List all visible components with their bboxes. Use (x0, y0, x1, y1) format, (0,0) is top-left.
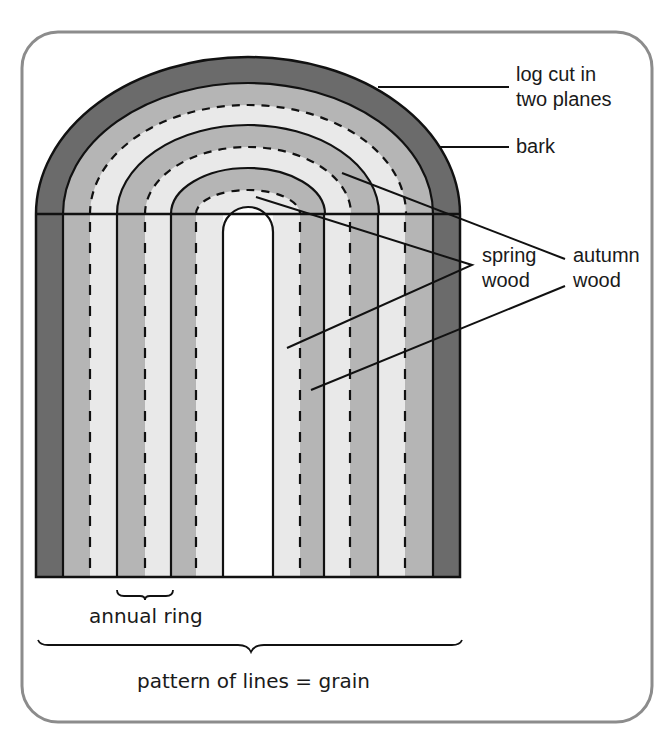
label-spring-line1: spring (482, 244, 536, 266)
label-log-cut-line2: two planes (516, 88, 612, 110)
label-grain-caption: pattern of lines = grain (137, 669, 370, 693)
log-side-stripes (36, 207, 460, 577)
label-annual-ring: annual ring (89, 604, 203, 628)
label-autumn-line2: wood (572, 269, 621, 291)
wood-grain-diagram: log cut in two planes bark spring wood a… (0, 0, 661, 740)
label-spring-line2: wood (481, 269, 530, 291)
pith-slot (223, 207, 273, 577)
label-log-cut-line1: log cut in (516, 63, 596, 85)
label-bark: bark (516, 135, 556, 157)
label-autumn-line1: autumn (573, 244, 640, 266)
